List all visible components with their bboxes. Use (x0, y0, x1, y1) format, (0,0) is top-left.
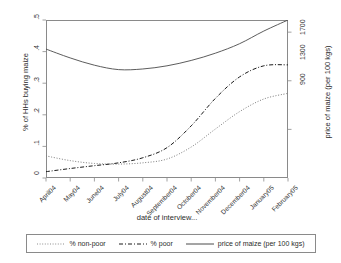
legend-item-price: price of maize (per 100 kgs) (186, 240, 305, 247)
legend-key-solid-icon (186, 241, 214, 247)
legend-key-dashdot-icon (119, 241, 147, 247)
legend-label-poor: % poor (151, 240, 173, 247)
chart-legend: % non-poor % poor price of maize (per 10… (26, 234, 316, 253)
axis-ticks (0, 0, 341, 263)
x-axis-title: date of interview... (46, 213, 288, 222)
legend-item-non-poor: % non-poor (37, 240, 105, 247)
legend-label-price: price of maize (per 100 kgs) (218, 240, 305, 247)
chart-figure: % of HHs buying maize price of maize (pe… (0, 0, 341, 263)
legend-label-non-poor: % non-poor (69, 240, 105, 247)
legend-key-dotted-icon (37, 241, 65, 247)
legend-item-poor: % poor (119, 240, 173, 247)
